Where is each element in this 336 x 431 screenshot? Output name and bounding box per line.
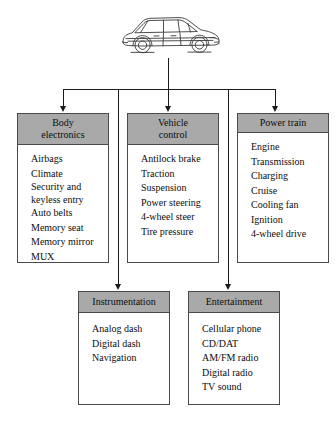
- list-item: Memory seat: [18, 221, 108, 236]
- list-item: Suspension: [128, 181, 218, 196]
- connector-drop-instrumentation: [118, 89, 119, 285]
- list-item: Digital radio: [189, 366, 279, 381]
- node-instrumentation[interactable]: Instrumentation Analog dash Digital dash…: [78, 291, 170, 405]
- node-item-list-vehicle-control: Antilock brake Traction Suspension Power…: [128, 145, 218, 239]
- connector-bus: [63, 89, 275, 90]
- node-power-train[interactable]: Power train Engine Transmission Charging…: [237, 113, 329, 263]
- list-item: Digital dash: [79, 337, 169, 352]
- node-vehicle-control[interactable]: Vehicle control Antilock brake Traction …: [127, 113, 219, 263]
- node-body-electronics[interactable]: Body electronics Airbags Climate Securit…: [17, 113, 109, 263]
- list-item: Airbags: [18, 152, 108, 167]
- list-item: 4-wheel drive: [238, 227, 328, 242]
- arrowhead-instrumentation: [115, 284, 121, 290]
- node-title-line1: Power train: [240, 117, 326, 129]
- connector-drop-entertainment: [228, 89, 229, 285]
- node-title-line1: Body: [20, 117, 106, 129]
- list-item: Tire pressure: [128, 225, 218, 240]
- list-item: Engine: [238, 140, 328, 155]
- list-item: 4-wheel steer: [128, 210, 218, 225]
- connector-root-stem: [168, 58, 169, 107]
- node-title-line1: Vehicle: [130, 117, 216, 129]
- arrowhead-vehicle-control: [165, 106, 171, 112]
- list-item: Antilock brake: [128, 152, 218, 167]
- node-header-body-electronics: Body electronics: [18, 114, 108, 145]
- connector-drop-power-train: [275, 89, 276, 107]
- car-illustration: [118, 12, 222, 58]
- list-item: Climate: [18, 167, 108, 182]
- list-item: Security and keyless entry: [18, 181, 108, 206]
- diagram-canvas: Body electronics Airbags Climate Securit…: [0, 0, 336, 431]
- node-entertainment[interactable]: Entertainment Cellular phone CD/DAT AM/F…: [188, 291, 280, 405]
- node-header-entertainment: Entertainment: [189, 292, 279, 313]
- connector-drop-body-electronics: [63, 89, 64, 107]
- list-item: AM/FM radio: [189, 351, 279, 366]
- node-title-line1: Entertainment: [191, 296, 277, 308]
- list-item: Analog dash: [79, 322, 169, 337]
- node-header-power-train: Power train: [238, 114, 328, 133]
- list-item: Charging: [238, 169, 328, 184]
- list-item: Power steering: [128, 196, 218, 211]
- list-item: Navigation: [79, 351, 169, 366]
- list-item: TV sound: [189, 380, 279, 395]
- node-title-line2: electronics: [20, 129, 106, 141]
- node-item-list-body-electronics: Airbags Climate Security and keyless ent…: [18, 145, 108, 264]
- list-item: Cruise: [238, 184, 328, 199]
- list-item: Transmission: [238, 155, 328, 170]
- node-item-list-entertainment: Cellular phone CD/DAT AM/FM radio Digita…: [189, 313, 279, 395]
- list-item: MUX: [18, 250, 108, 265]
- node-header-vehicle-control: Vehicle control: [128, 114, 218, 145]
- list-item: Cooling fan: [238, 198, 328, 213]
- arrowhead-power-train: [272, 106, 278, 112]
- list-item: Traction: [128, 167, 218, 182]
- node-item-list-power-train: Engine Transmission Charging Cruise Cool…: [238, 133, 328, 242]
- arrowhead-body-electronics: [60, 106, 66, 112]
- node-item-list-instrumentation: Analog dash Digital dash Navigation: [79, 313, 169, 366]
- list-item: Ignition: [238, 213, 328, 228]
- list-item: Cellular phone: [189, 322, 279, 337]
- node-header-instrumentation: Instrumentation: [79, 292, 169, 313]
- list-item: CD/DAT: [189, 337, 279, 352]
- node-title-line1: Instrumentation: [81, 296, 167, 308]
- node-title-line2: control: [130, 129, 216, 141]
- list-item: Auto belts: [18, 206, 108, 221]
- arrowhead-entertainment: [225, 284, 231, 290]
- list-item: Memory mirror: [18, 235, 108, 250]
